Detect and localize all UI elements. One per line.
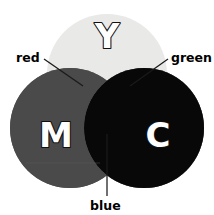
letter-cyan: C xyxy=(146,115,171,155)
cmy-venn-diagram: Y M C red green blue xyxy=(0,0,214,215)
letter-yellow: Y xyxy=(94,16,120,56)
venn-diagram-canvas: Y M C red green blue xyxy=(0,0,214,215)
label-blue: blue xyxy=(90,198,121,213)
label-green: green xyxy=(171,50,212,65)
letter-magenta: M xyxy=(39,115,73,155)
label-red: red xyxy=(16,50,40,65)
